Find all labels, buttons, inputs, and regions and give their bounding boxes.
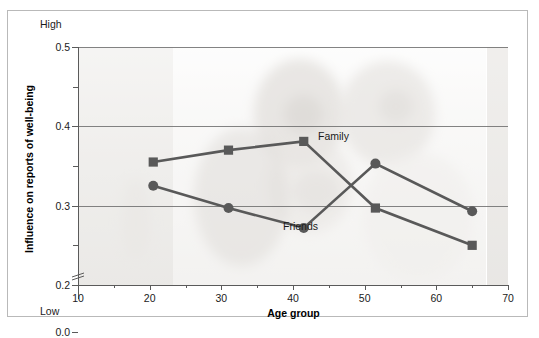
data-point-friends: [467, 206, 477, 216]
y-tick-label: 0.5: [55, 41, 70, 53]
x-tick: [472, 285, 473, 288]
plot-area: [78, 47, 508, 285]
data-point-family: [299, 137, 308, 146]
x-tick-label: 40: [287, 292, 299, 304]
y-tick: [72, 47, 78, 48]
x-tick-label: 70: [502, 292, 514, 304]
x-tick: [150, 285, 151, 290]
data-point-family: [149, 157, 158, 166]
x-tick: [257, 285, 258, 288]
data-point-family: [224, 146, 233, 155]
y-axis-line: [78, 47, 79, 299]
y-tick: [73, 87, 78, 88]
x-tick: [293, 285, 294, 290]
x-tick: [436, 285, 437, 290]
series-lines: [78, 47, 508, 285]
x-tick-label: 50: [359, 292, 371, 304]
y-tick-label-zero: 0.0: [55, 326, 70, 338]
y-axis-break-icon: [70, 268, 86, 282]
x-tick: [508, 285, 509, 290]
data-point-family: [371, 203, 380, 212]
data-point-family: [468, 241, 477, 250]
x-tick: [401, 285, 402, 288]
x-tick-label: 60: [430, 292, 442, 304]
x-tick-label: 30: [215, 292, 227, 304]
y-tick-label: 0.2: [55, 279, 70, 291]
series-line-friends: [153, 164, 472, 228]
data-point-friends: [224, 203, 234, 213]
x-tick: [78, 285, 79, 290]
series-label-friends: Friends: [283, 220, 318, 232]
x-axis-title: Age group: [78, 307, 509, 319]
x-tick: [365, 285, 366, 290]
x-tick-label: 10: [72, 292, 84, 304]
y-tick: [72, 126, 78, 127]
x-tick: [329, 285, 330, 288]
y-tick-label: 0.3: [55, 200, 70, 212]
x-tick-label: 20: [144, 292, 156, 304]
y-tick: [72, 332, 78, 333]
y-tick: [73, 166, 78, 167]
x-tick: [221, 285, 222, 290]
y-axis-tick-labels: 0.20.30.40.50.0: [0, 0, 70, 330]
y-tick-label: 0.4: [55, 120, 70, 132]
y-tick: [73, 245, 78, 246]
data-point-friends: [148, 181, 158, 191]
series-label-family: Family: [318, 130, 349, 142]
x-tick: [186, 285, 187, 288]
x-tick: [114, 285, 115, 288]
y-tick: [72, 206, 78, 207]
data-point-friends: [370, 159, 380, 169]
